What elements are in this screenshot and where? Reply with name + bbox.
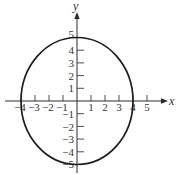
- y-tick-label: 1: [69, 82, 75, 94]
- x-tick-label: 5: [144, 101, 150, 113]
- y-tick-label: −1: [62, 108, 74, 120]
- x-axis-label: x: [168, 94, 175, 108]
- x-tick-labels: −4 −3 −2 −1 1 2 3 4 5: [14, 101, 150, 113]
- ellipse-plot: x y −4 −3 −2 −1 1 2 3 4 5: [0, 0, 177, 175]
- x-tick-label: 1: [88, 101, 94, 113]
- x-tick-label: −3: [28, 101, 40, 113]
- y-tick-label: 3: [69, 57, 75, 69]
- y-tick-label: 2: [69, 70, 75, 82]
- y-tick-label: −2: [62, 121, 74, 133]
- x-tick-label: 2: [102, 101, 108, 113]
- y-tick-label: 4: [69, 44, 75, 56]
- y-tick-labels: 5 4 3 2 1 −1 −2 −3 −4 −5: [62, 28, 74, 170]
- y-tick-label: −3: [62, 133, 74, 145]
- x-tick-label: 3: [116, 101, 122, 113]
- x-ticks: [21, 95, 147, 101]
- y-axis-arrow-icon: [74, 12, 79, 19]
- x-tick-label: −2: [42, 101, 54, 113]
- x-axis-arrow-icon: [161, 98, 168, 103]
- y-tick-label: −4: [62, 146, 74, 158]
- y-axis-label: y: [72, 0, 79, 13]
